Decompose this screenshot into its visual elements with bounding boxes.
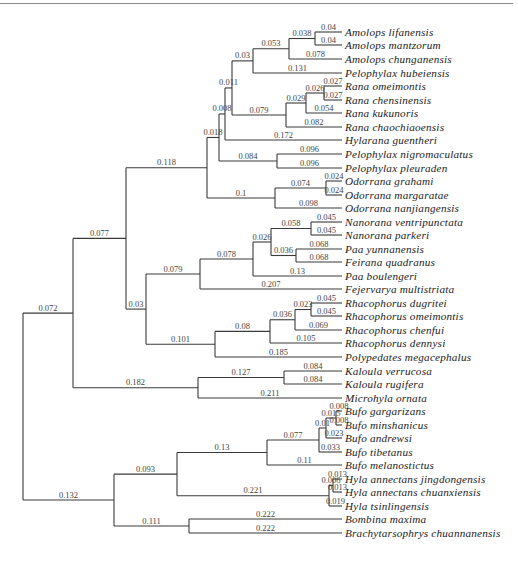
taxon-label: Bufo melanostictus	[345, 459, 434, 471]
branch-length-label: 0.078	[217, 249, 236, 259]
branch-length-label: 0.105	[296, 333, 315, 343]
branch-length-label: 0.13	[215, 442, 230, 452]
taxon-label: Bufo tibetanus	[345, 446, 413, 458]
taxon-label: Polypedates megacephalus	[344, 351, 472, 363]
branch-length-label: 0.079	[163, 264, 182, 274]
branch-length-label: 0.082	[304, 117, 323, 127]
branch-length-label: 0.084	[303, 374, 323, 384]
branch-length-label: 0.096	[300, 144, 319, 154]
branch-length-label: 0.222	[256, 523, 275, 533]
taxon-label: Nanorana ventripunctata	[344, 216, 463, 228]
branch-length-label: 0.008	[212, 103, 231, 113]
branch-length-label: 0.11	[297, 455, 312, 465]
branch-length-label: 0.026	[305, 83, 324, 93]
branch-length-label: 0.069	[309, 320, 328, 330]
taxon-label: Amolops mantzorum	[344, 39, 441, 51]
branch-length-label: 0.211	[261, 388, 280, 398]
branch-length-label: 0.04	[321, 35, 337, 45]
taxon-label: Pelophylax pleuraden	[344, 162, 448, 174]
branch-length-label: 0.077	[90, 228, 109, 238]
branch-length-label: 0.1	[236, 188, 247, 198]
branch-length-label: 0.118	[157, 157, 176, 167]
taxon-label: Hyla tsinlingensis	[344, 500, 430, 512]
branch-length-label: 0.019	[326, 496, 345, 506]
taxon-label: Bombina maxima	[345, 513, 427, 525]
branch-length-label: 0.036	[274, 245, 293, 255]
taxon-label: Rana chaochiaoensis	[344, 121, 445, 133]
taxon-label: Rana chensinensis	[344, 94, 432, 106]
taxon-label: Amolops chunganensis	[344, 53, 452, 65]
branch-length-label: 0.045	[317, 306, 336, 316]
taxon-label: Amolops lifanensis	[344, 26, 434, 38]
taxon-label: Brachytarsophrys chuannanensis	[345, 527, 501, 539]
taxon-label: Paa yunnanensis	[344, 243, 425, 255]
branch-length-label: 0.038	[292, 28, 311, 38]
branch-length-label: 0.084	[238, 151, 258, 161]
branch-length-label: 0.054	[314, 103, 334, 113]
branch-length-label: 0.131	[288, 63, 307, 73]
taxon-label: Hyla annectans jingdongensis	[344, 473, 486, 485]
taxon-label: Rhacophorus dennysi	[344, 337, 445, 349]
branch-length-label: 0.053	[261, 38, 280, 48]
branch-length-label: 0.079	[249, 105, 268, 115]
branch-length-label: 0.027	[323, 76, 342, 86]
branch-length-label: 0.011	[219, 77, 238, 87]
taxon-label: Odorrana grahami	[345, 175, 434, 187]
taxon-label: Bufo minshanicus	[345, 419, 429, 431]
taxon-label: Rana omeimontis	[344, 80, 426, 92]
taxon-label: Odorrana nanjiangensis	[345, 202, 460, 214]
branch-length-label: 0.018	[203, 127, 222, 137]
taxon-label: Microhyla ornata	[344, 392, 427, 404]
branch-length-label: 0.026	[252, 232, 271, 242]
branch-length-label: 0.068	[309, 252, 328, 262]
branch-length-label: 0.04	[321, 22, 337, 32]
branch-length-label: 0.132	[59, 490, 78, 500]
branch-length-label: 0.127	[231, 367, 250, 377]
taxon-label: Feirana quadranus	[344, 256, 436, 268]
branch-length-label: 0.03	[129, 299, 144, 309]
branch-length-label: 0.072	[38, 303, 57, 313]
taxon-label: Hylarana guentheri	[344, 134, 437, 146]
taxon-label: Odorrana margaratae	[345, 189, 449, 201]
branch-length-label: 0.036	[273, 309, 292, 319]
branch-length-label: 0.058	[281, 218, 300, 228]
branch-length-label: 0.185	[269, 347, 288, 357]
branch-length-label: 0.222	[256, 509, 275, 519]
taxon-label: Pelophylax hubeiensis	[344, 67, 450, 79]
branch-length-label: 0.024	[324, 185, 344, 195]
branch-length-label: 0.101	[171, 334, 190, 344]
taxon-label: Rhacophorus chenfui	[344, 324, 444, 336]
branch-length-label: 0.045	[317, 225, 336, 235]
taxon-label: Nanorana parkeri	[344, 229, 429, 241]
taxon-labels: Amolops lifanensisAmolops mantzorumAmolo…	[344, 26, 501, 539]
taxon-label: Rhacophorus dugritei	[344, 297, 447, 309]
branch-length-label: 0.078	[306, 49, 325, 59]
branch-length-labels: 0.0720.0770.1180.0180.0080.0110.030.0530…	[38, 22, 348, 533]
branch-length-label: 0.084	[303, 361, 323, 371]
branch-length-label: 0.027	[323, 90, 342, 100]
taxon-label: Kaloula rugifera	[344, 378, 424, 390]
phylogenetic-tree: 0.0720.0770.1180.0180.0080.0110.030.0530…	[0, 0, 518, 561]
branch-length-label: 0.074	[291, 178, 311, 188]
branch-length-label: 0.024	[324, 171, 344, 181]
taxon-label: Bufo gargarizans	[345, 405, 426, 417]
branch-length-label: 0.096	[300, 158, 319, 168]
branch-length-label: 0.03	[235, 50, 250, 60]
branch-length-label: 0.221	[243, 485, 262, 495]
taxon-label: Rana kukunoris	[344, 107, 419, 119]
branch-length-label: 0.111	[142, 516, 161, 526]
branch-length-label: 0.08	[235, 321, 250, 331]
branch-length-label: 0.098	[299, 198, 318, 208]
taxon-label: Fejervarya multistriata	[344, 283, 455, 295]
taxon-label: Rhacophorus omeimontis	[344, 310, 464, 322]
tree-branches	[23, 32, 342, 533]
branch-length-label: 0.033	[321, 442, 340, 452]
taxon-label: Kaloula verrucosa	[344, 365, 432, 377]
branch-length-label: 0.01	[315, 418, 330, 428]
branch-length-label: 0.045	[317, 293, 336, 303]
branch-length-label: 0.207	[261, 279, 280, 289]
branch-length-label: 0.093	[136, 464, 155, 474]
branch-length-label: 0.029	[286, 93, 305, 103]
branch-length-label: 0.077	[283, 430, 302, 440]
taxon-label: Bufo andrewsi	[345, 432, 412, 444]
